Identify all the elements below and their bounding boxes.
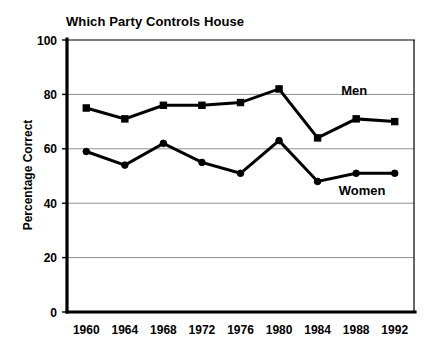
chart-container: Which Party Controls House Percentage Co… bbox=[0, 0, 435, 357]
data-point-women-1960 bbox=[83, 148, 90, 155]
y-tick-label: 20 bbox=[44, 251, 58, 265]
x-tick-label: 1980 bbox=[266, 323, 293, 337]
x-tick-label: 1960 bbox=[73, 323, 100, 337]
y-tick-label: 0 bbox=[50, 306, 57, 320]
x-tick-label: 1972 bbox=[189, 323, 216, 337]
data-point-women-1972 bbox=[199, 159, 206, 166]
data-point-women-1964 bbox=[122, 162, 129, 169]
x-tick-label: 1968 bbox=[150, 323, 177, 337]
data-point-women-1976 bbox=[237, 170, 244, 177]
x-tick-label: 1964 bbox=[111, 323, 138, 337]
series-label-women: Women bbox=[339, 183, 386, 198]
data-point-men-1960 bbox=[83, 105, 89, 111]
x-tick-label: 1992 bbox=[381, 323, 408, 337]
data-point-men-1980 bbox=[276, 86, 282, 92]
y-axis-ticks: 020406080100 bbox=[37, 34, 67, 320]
series-annotations: MenWomen bbox=[339, 83, 386, 198]
series-group bbox=[83, 86, 398, 185]
data-point-women-1968 bbox=[160, 140, 167, 147]
data-point-men-1992 bbox=[392, 118, 398, 124]
data-point-men-1968 bbox=[160, 102, 166, 108]
y-tick-label: 100 bbox=[37, 34, 57, 48]
data-point-men-1988 bbox=[353, 116, 359, 122]
data-point-women-1980 bbox=[276, 137, 283, 144]
series-label-men: Men bbox=[341, 83, 367, 98]
data-point-men-1972 bbox=[199, 102, 205, 108]
x-tick-label: 1988 bbox=[343, 323, 370, 337]
y-tick-label: 40 bbox=[44, 197, 58, 211]
data-point-men-1964 bbox=[122, 116, 128, 122]
data-point-men-1984 bbox=[314, 135, 320, 141]
y-tick-label: 60 bbox=[44, 142, 58, 156]
y-tick-label: 80 bbox=[44, 88, 58, 102]
data-point-women-1992 bbox=[391, 170, 398, 177]
x-tick-label: 1984 bbox=[304, 323, 331, 337]
x-tick-label: 1976 bbox=[227, 323, 254, 337]
data-point-men-1976 bbox=[237, 99, 243, 105]
data-point-women-1984 bbox=[314, 178, 321, 185]
plot-area: 020406080100 196019641968197219761980198… bbox=[0, 0, 435, 357]
x-axis-ticks: 196019641968197219761980198419881992 bbox=[73, 323, 408, 337]
data-point-women-1988 bbox=[353, 170, 360, 177]
